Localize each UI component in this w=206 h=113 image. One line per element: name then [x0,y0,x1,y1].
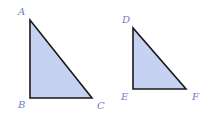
vertex-label-b: B [17,99,25,110]
vertex-label-d: D [121,14,130,25]
vertex-label-f: F [191,91,200,102]
vertex-label-e: E [120,91,129,102]
triangle-def [133,28,186,89]
vertex-label-a: A [17,6,25,17]
vertex-label-c: C [97,100,105,111]
similar-triangles-diagram: A B C D E F [0,0,206,113]
triangle-abc [30,20,92,98]
